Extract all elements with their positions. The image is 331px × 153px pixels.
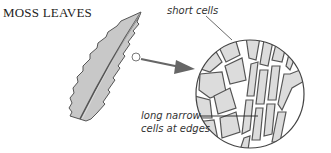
label-long-cells-2: cells at edges bbox=[141, 123, 210, 135]
arrow-icon bbox=[141, 59, 195, 74]
highlight-circle bbox=[132, 53, 140, 61]
leader-line-short bbox=[206, 16, 232, 40]
label-long-cells-1: long narrow bbox=[141, 110, 201, 122]
label-short-cells: short cells bbox=[167, 5, 218, 17]
leaf-icon bbox=[69, 12, 141, 121]
